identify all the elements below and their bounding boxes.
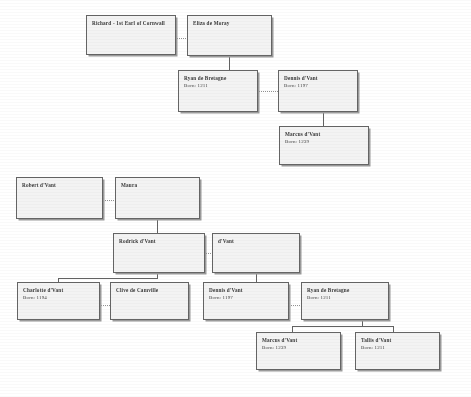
person-name: Eliza de Moray <box>193 20 266 27</box>
descent-line-maura-rodrick <box>157 219 158 233</box>
person-name: Tallis d'Vant <box>361 337 434 344</box>
person-name: Clive de Camville <box>116 287 183 294</box>
family-tree-canvas: Richard - 1st Earl of Cornwall Eliza de … <box>0 0 471 397</box>
marriage-connector-dennis-ryan <box>288 305 302 306</box>
person-name: Ryan de Bretagne <box>184 75 252 82</box>
person-born: Born: 1197 <box>284 82 352 90</box>
person-node-ryan-de-bretagne-top[interactable]: Ryan de Bretagne Born: 1211 <box>178 70 258 112</box>
person-node-maura[interactable]: Maura <box>115 177 200 219</box>
sibling-bus-left <box>58 278 158 279</box>
person-node-rodrick-dvant[interactable]: Rodrick d'Vant <box>113 233 205 273</box>
person-node-eliza-de-moray[interactable]: Eliza de Moray <box>187 15 272 56</box>
person-node-marcus-dvant-bottom[interactable]: Marcus d'Vant Born: 1239 <box>256 332 341 370</box>
person-name: Charlotte d'Vant <box>23 287 94 294</box>
person-name: Marcus d'Vant <box>285 131 363 138</box>
descent-line-dennis-marcus <box>323 112 324 126</box>
person-name: Richard - 1st Earl of Cornwall <box>92 20 170 27</box>
person-name: Maura <box>121 182 194 189</box>
person-name: Rodrick d'Vant <box>119 238 199 245</box>
person-node-robert-dvant[interactable]: Robert d'Vant <box>16 177 103 219</box>
person-node-marcus-dvant-top[interactable]: Marcus d'Vant Born: 1239 <box>279 126 369 165</box>
person-node-dvant[interactable]: d'Vant <box>212 233 300 273</box>
person-name: Dennis d'Vant <box>284 75 352 82</box>
person-born: Born: 1211 <box>184 82 252 90</box>
marriage-connector-ryan-dennis <box>258 91 278 92</box>
person-node-tallis-dvant[interactable]: Tallis d'Vant Born: 1211 <box>355 332 440 370</box>
person-node-dennis-dvant-bottom[interactable]: Dennis d'Vant Born: 1197 <box>203 282 289 320</box>
person-born: Born: 1194 <box>23 294 94 302</box>
person-node-dennis-dvant-top[interactable]: Dennis d'Vant Born: 1197 <box>278 70 358 112</box>
person-born: Born: 1239 <box>285 138 363 146</box>
person-node-ryan-de-bretagne-bottom[interactable]: Ryan de Bretagne Born: 1211 <box>301 282 389 320</box>
person-born: Born: 1197 <box>209 294 283 302</box>
person-born: Born: 1239 <box>262 344 335 352</box>
person-born: Born: 1211 <box>361 344 434 352</box>
person-name: Ryan de Bretagne <box>307 287 383 294</box>
person-name: Robert d'Vant <box>22 182 97 189</box>
person-node-charlotte-dvant[interactable]: Charlotte d'Vant Born: 1194 <box>17 282 100 320</box>
person-name: d'Vant <box>218 238 294 245</box>
person-born: Born: 1211 <box>307 294 383 302</box>
person-node-clive-de-camville[interactable]: Clive de Camville <box>110 282 189 320</box>
person-name: Marcus d'Vant <box>262 337 335 344</box>
person-node-richard-cornwall[interactable]: Richard - 1st Earl of Cornwall <box>86 15 176 55</box>
person-name: Dennis d'Vant <box>209 287 283 294</box>
descent-line-eliza-ryan <box>229 56 230 70</box>
sibling-bus-bottom <box>292 326 393 327</box>
